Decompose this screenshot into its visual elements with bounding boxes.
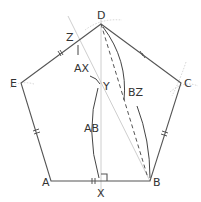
label-bz: BZ [128,86,144,99]
label-ax: AX [74,62,90,75]
label-z: Z [66,31,74,44]
label-ab: AB [84,122,99,135]
label-c: C [184,77,192,90]
pentagon-construction-diagram: D Z E C AX Y BZ AB A B X [0,0,201,202]
label-b: B [153,176,161,189]
right-angle-marker [101,174,107,181]
label-a: A [42,176,50,189]
label-d: D [97,9,105,22]
equal-length-ticks [33,50,168,184]
diagonal-db-dashed [101,24,148,178]
label-x: X [97,187,105,200]
label-e: E [10,77,17,90]
label-y: Y [102,80,110,93]
